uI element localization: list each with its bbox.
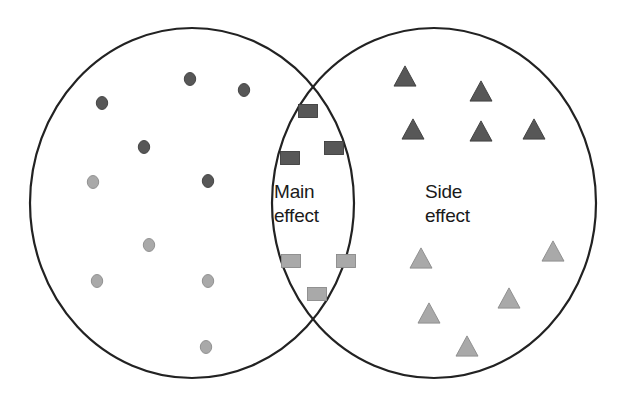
right-region-label: Side effect bbox=[425, 180, 470, 228]
marker-circle bbox=[202, 175, 213, 188]
marker-circle bbox=[200, 341, 211, 354]
marker-circle bbox=[184, 73, 195, 86]
marker-circle bbox=[96, 97, 107, 110]
venn-diagram-figure: Main effect Side effect bbox=[0, 0, 618, 400]
marker-circle bbox=[87, 176, 98, 189]
series-overlap-light-squares bbox=[282, 255, 356, 301]
overlap-region-label: Main effect bbox=[274, 180, 319, 228]
marker-triangle bbox=[394, 66, 416, 86]
marker-circle bbox=[91, 275, 102, 288]
marker-triangle bbox=[498, 288, 520, 308]
marker-square bbox=[325, 142, 344, 155]
marker-triangle bbox=[542, 241, 564, 261]
marker-triangle bbox=[402, 119, 424, 139]
marker-square bbox=[299, 105, 318, 118]
marker-triangle bbox=[470, 121, 492, 141]
series-left-dark-circles bbox=[96, 73, 249, 188]
series-overlap-dark-squares bbox=[281, 105, 344, 165]
marker-circle bbox=[138, 141, 149, 154]
marker-triangle bbox=[410, 248, 432, 268]
marker-square bbox=[281, 152, 300, 165]
marker-triangle bbox=[470, 81, 492, 101]
marker-triangle bbox=[456, 336, 478, 356]
series-right-light-triangles bbox=[410, 241, 564, 356]
marker-circle bbox=[143, 239, 154, 252]
marker-square bbox=[282, 255, 301, 268]
marker-circle bbox=[238, 84, 249, 97]
marker-triangle bbox=[523, 119, 545, 139]
marker-square bbox=[308, 288, 327, 301]
series-right-dark-triangles bbox=[394, 66, 545, 141]
series-left-light-circles bbox=[87, 176, 213, 354]
marker-circle bbox=[202, 275, 213, 288]
marker-square bbox=[337, 255, 356, 268]
data-markers-layer bbox=[87, 66, 564, 356]
marker-triangle bbox=[418, 303, 440, 323]
